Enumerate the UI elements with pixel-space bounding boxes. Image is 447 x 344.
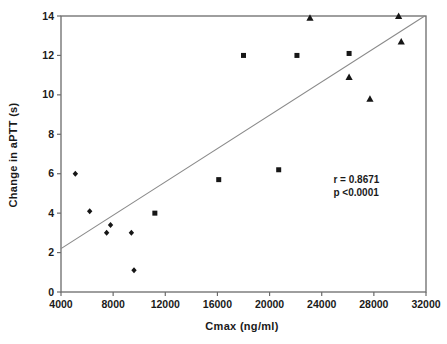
data-point-diamond (131, 267, 136, 273)
data-point-square (241, 53, 246, 58)
data-point-triangle (306, 14, 313, 21)
data-point-diamond (87, 208, 92, 214)
data-point-square (216, 177, 221, 182)
x-tick-label: 16000 (203, 298, 232, 310)
y-axis-title: Change in aPTT (s) (7, 102, 19, 207)
data-point-triangle (345, 74, 352, 81)
data-point-diamond (104, 230, 109, 236)
data-point-diamond (129, 230, 134, 236)
x-tick-label: 8000 (101, 298, 125, 310)
p-value-text: p <0.0001 (333, 186, 379, 199)
x-tick-label: 28000 (359, 298, 388, 310)
y-tick-label: 6 (48, 167, 54, 179)
y-tick-label: 0 (48, 286, 54, 298)
regression-line (61, 16, 425, 249)
x-tick-label: 4000 (49, 298, 73, 310)
y-tick-label: 10 (42, 88, 54, 100)
scatter-plot-figure: 4000800012000160002000024000280003200002… (0, 0, 447, 344)
data-point-square (152, 211, 157, 216)
data-point-square (294, 53, 299, 58)
stats-annotation: r = 0.8671 p <0.0001 (333, 173, 379, 199)
x-tick-label: 32000 (411, 298, 440, 310)
data-point-square (347, 51, 352, 56)
data-point-square (276, 167, 281, 172)
x-tick-label: 20000 (255, 298, 284, 310)
data-point-diamond (108, 222, 113, 228)
plot-area: 4000800012000160002000024000280003200002… (0, 0, 447, 344)
y-tick-label: 4 (48, 207, 54, 219)
y-tick-label: 12 (42, 49, 54, 61)
data-point-diamond (73, 171, 78, 177)
r-value-text: r = 0.8671 (333, 173, 379, 186)
y-tick-label: 8 (48, 128, 54, 140)
x-tick-label: 12000 (151, 298, 180, 310)
y-tick-label: 2 (48, 246, 54, 258)
y-tick-label: 14 (42, 10, 54, 22)
x-tick-label: 24000 (307, 298, 336, 310)
x-axis-title: Cmax (ng/ml) (205, 320, 278, 332)
data-point-triangle (398, 38, 405, 45)
data-point-triangle (366, 95, 373, 102)
